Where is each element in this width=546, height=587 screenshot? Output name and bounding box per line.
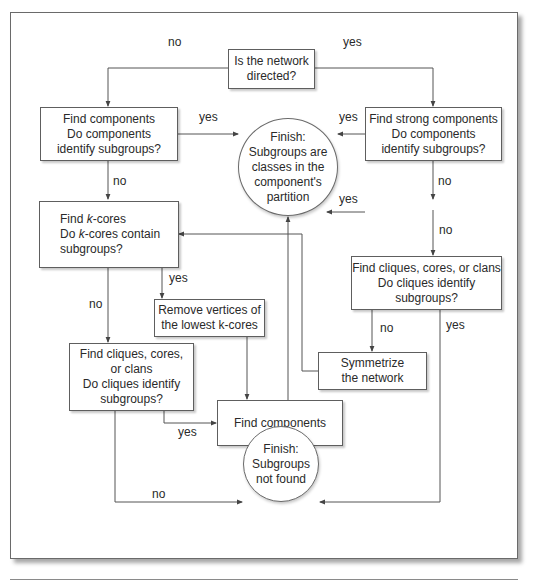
node-remove-vertices: Remove vertices of the lowest k-cores — [154, 299, 265, 337]
node-text: Is the network — [229, 54, 314, 69]
node-text: subgroups? — [60, 242, 178, 257]
node-text: Finish: — [239, 130, 337, 145]
node-text: Finish: — [244, 442, 318, 457]
node-text: Subgroups — [244, 457, 318, 472]
node-finish-subgroups-not-found: Finish: Subgroups not found — [243, 426, 319, 502]
node-find-cliques-right: Find cliques, cores, or clans Do cliques… — [351, 256, 502, 310]
node-text: Do components — [366, 127, 501, 142]
node-text: or clans — [70, 362, 193, 377]
node-text: Symmetrize — [319, 356, 426, 371]
node-finish-subgroups-found: Finish: Subgroups are classes in the com… — [238, 118, 338, 216]
node-text: subgroups? — [352, 291, 501, 306]
edge-label-start-no: no — [168, 35, 181, 49]
node-text: the network — [319, 371, 426, 386]
edge-label-kcores-no: no — [89, 297, 102, 311]
node-text: Find k-cores — [60, 212, 178, 227]
node-find-strong-components: Find strong components Do components ide… — [365, 107, 502, 161]
edge-label-cliques-right-yes: yes — [446, 318, 465, 332]
node-text: Find cliques, cores, — [70, 347, 193, 362]
node-find-k-cores: Find k-cores Do k-cores contain subgroup… — [39, 201, 179, 268]
node-text: not found — [244, 472, 318, 487]
node-find-components: Find components Do components identify s… — [40, 107, 178, 161]
node-text: component's — [239, 175, 337, 190]
node-text: Remove vertices of — [155, 303, 264, 318]
edge-label-strong-no-2: no — [439, 223, 452, 237]
edge-label-floating-yes: yes — [339, 192, 358, 206]
node-text: Do cliques identify — [352, 276, 501, 291]
node-text: Find strong components — [366, 112, 501, 127]
node-text: partition — [239, 190, 337, 205]
edge-label-strong-yes: yes — [339, 110, 358, 124]
edge-label-components-yes: yes — [199, 110, 218, 124]
node-text: the lowest k-cores — [155, 318, 264, 333]
node-find-cliques-left: Find cliques, cores, or clans Do cliques… — [69, 343, 194, 411]
node-text: Find cliques, cores, or clans — [352, 261, 501, 276]
node-text: Find components — [41, 112, 177, 127]
edge-label-cliques-left-no: no — [152, 487, 165, 501]
edge-label-cliques-right-no: no — [380, 321, 393, 335]
node-is-network-directed: Is the network directed? — [228, 49, 315, 89]
edge-label-cliques-left-yes: yes — [178, 425, 197, 439]
edge-label-components-no: no — [113, 174, 126, 188]
edge-label-start-yes: yes — [343, 35, 362, 49]
node-text: Do cliques identify — [70, 377, 193, 392]
node-text: classes in the — [239, 160, 337, 175]
node-text: Subgroups are — [239, 145, 337, 160]
node-text: Do k-cores contain — [60, 227, 178, 242]
node-text: identify subgroups? — [366, 142, 501, 157]
node-text: directed? — [229, 69, 314, 84]
edge-label-kcores-yes: yes — [169, 271, 188, 285]
node-text: Do components — [41, 127, 177, 142]
edge-label-strong-no: no — [438, 174, 451, 188]
node-symmetrize-network: Symmetrize the network — [318, 352, 427, 390]
node-text: identify subgroups? — [41, 142, 177, 157]
node-text: subgroups? — [70, 392, 193, 407]
